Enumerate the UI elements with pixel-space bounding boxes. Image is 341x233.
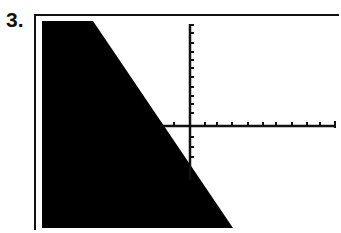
x-axis <box>160 121 336 128</box>
graph-plot <box>0 0 341 233</box>
y-axis <box>190 24 194 180</box>
